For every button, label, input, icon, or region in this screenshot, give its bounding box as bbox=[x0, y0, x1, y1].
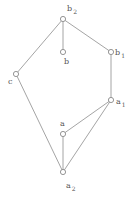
edge-a1-a2 bbox=[63, 100, 111, 172]
node-b1 bbox=[108, 49, 113, 54]
node-a2 bbox=[60, 169, 65, 174]
node-b bbox=[60, 49, 65, 54]
label-c: c bbox=[8, 77, 13, 86]
label-b1: b1 bbox=[115, 48, 125, 59]
edges bbox=[16, 19, 111, 172]
node-c bbox=[13, 71, 18, 76]
edge-a1-a bbox=[63, 100, 111, 134]
node-b2 bbox=[60, 16, 65, 21]
label-a2: a2 bbox=[66, 181, 76, 192]
label-a: a bbox=[60, 119, 65, 128]
edge-b2-c bbox=[16, 19, 63, 74]
edge-b2-b1 bbox=[63, 19, 111, 52]
labels: b2bb1ca1aa2 bbox=[8, 4, 126, 192]
label-b2: b2 bbox=[67, 4, 77, 15]
nodes bbox=[13, 16, 113, 174]
node-a1 bbox=[108, 97, 113, 102]
edge-c-a2 bbox=[16, 74, 63, 172]
hasse-diagram: b2bb1ca1aa2 bbox=[0, 0, 132, 202]
node-a bbox=[60, 131, 65, 136]
label-a1: a1 bbox=[116, 97, 126, 108]
label-b: b bbox=[64, 57, 69, 66]
